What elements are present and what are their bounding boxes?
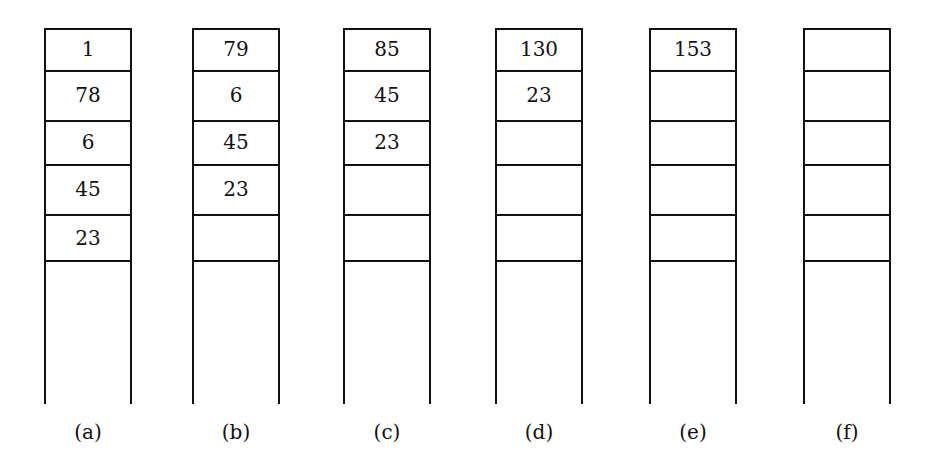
- stack-cell: 45: [46, 164, 130, 214]
- stack-cell: [651, 120, 735, 164]
- stack-cell: 6: [46, 120, 130, 164]
- stack-f: [803, 28, 891, 404]
- stack-d: 13023: [495, 28, 583, 404]
- stack-e: 153: [649, 28, 737, 404]
- stack-cell: 23: [497, 70, 581, 120]
- stack-cell: 1: [46, 28, 130, 70]
- stack-cell: [805, 70, 889, 120]
- stack-cell: 79: [194, 28, 278, 70]
- stack-cell: [805, 214, 889, 262]
- stack-cell: 45: [345, 70, 429, 120]
- stack-c: 854523: [343, 28, 431, 404]
- stack-cell: [651, 164, 735, 214]
- stack-label: (b): [192, 420, 280, 444]
- stack-label: (d): [495, 420, 583, 444]
- stack-cell: 23: [345, 120, 429, 164]
- stack-cell: [497, 120, 581, 164]
- stack-cell: [194, 214, 278, 262]
- stack-cell: [805, 28, 889, 70]
- stack-cell: 85: [345, 28, 429, 70]
- stack-cell: 23: [194, 164, 278, 214]
- stack-cell: [651, 214, 735, 262]
- stack-cell: [805, 120, 889, 164]
- stack-cell: [345, 164, 429, 214]
- stack-cell: 6: [194, 70, 278, 120]
- stack-cell: [805, 164, 889, 214]
- stack-cell: 78: [46, 70, 130, 120]
- stack-cell: 130: [497, 28, 581, 70]
- stack-label: (a): [44, 420, 132, 444]
- stack-cell: 153: [651, 28, 735, 70]
- stack-cell: [651, 70, 735, 120]
- stack-cell: 45: [194, 120, 278, 164]
- stack-a: 17864523: [44, 28, 132, 404]
- stack-cell: [497, 214, 581, 262]
- stack-cell: [497, 164, 581, 214]
- stack-cell: [345, 214, 429, 262]
- stack-b: 7964523: [192, 28, 280, 404]
- stack-label: (c): [343, 420, 431, 444]
- stack-label: (f): [803, 420, 891, 444]
- stack-label: (e): [649, 420, 737, 444]
- stack-cell: 23: [46, 214, 130, 262]
